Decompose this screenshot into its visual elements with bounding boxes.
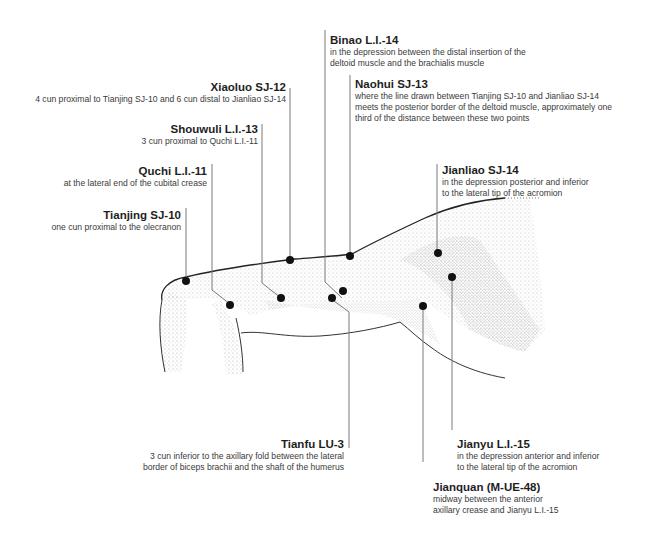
point-name: Tianfu LU-3: [143, 437, 344, 451]
point-binao: [339, 287, 347, 295]
label-tianfu: Tianfu LU-3 3 cun inferior to the axilla…: [143, 437, 344, 473]
label-shouwuli: Shouwuli L.I.-13 3 cun proximal to Quchi…: [142, 122, 258, 147]
point-desc: 3 cun inferior to the axillary fold betw…: [143, 451, 344, 462]
point-name: Shouwuli L.I.-13: [142, 122, 258, 136]
point-jianliao: [434, 249, 442, 257]
point-desc: in the depression posterior and inferior: [442, 177, 589, 188]
point-desc: to the lateral tip of the acromion: [442, 188, 589, 199]
point-naohui: [346, 252, 354, 260]
point-name: Tianjing SJ-10: [52, 208, 181, 222]
point-tianfu: [328, 294, 336, 302]
label-jianliao: Jianliao SJ-14 in the depression posteri…: [442, 163, 589, 199]
point-name: Jianliao SJ-14: [442, 163, 589, 177]
point-desc: deltoid muscle and the brachialis muscle: [330, 58, 526, 69]
label-jianyu: Jianyu L.I.-15 in the depression anterio…: [457, 437, 599, 473]
point-desc: in the depression anterior and inferior: [457, 451, 599, 462]
point-name: Jianquan (M-UE-48): [433, 480, 559, 494]
arm-shape: [160, 198, 545, 378]
point-desc: meets the posterior border of the deltoi…: [355, 102, 612, 113]
point-name: Quchi L.I.-11: [64, 164, 207, 178]
point-desc: 4 cun proximal to Tianjing SJ-10 and 6 c…: [35, 94, 286, 105]
point-name: Binao L.I.-14: [330, 33, 526, 47]
point-desc: border of biceps brachii and the shaft o…: [143, 462, 344, 473]
point-jianquan: [419, 302, 427, 310]
point-xiaoluo: [286, 256, 294, 264]
point-jianyu: [448, 273, 456, 281]
label-naohui: Naohui SJ-13 where the line drawn betwee…: [355, 77, 612, 124]
point-name: Jianyu L.I.-15: [457, 437, 599, 451]
point-desc: to the lateral tip of the acromion: [457, 462, 599, 473]
label-binao: Binao L.I.-14 in the depression between …: [330, 33, 526, 69]
point-name: Naohui SJ-13: [355, 77, 612, 91]
point-desc: in the depression between the distal ins…: [330, 47, 526, 58]
label-xiaoluo: Xiaoluo SJ-12 4 cun proximal to Tianjing…: [35, 80, 286, 105]
point-desc: midway between the anterior: [433, 494, 559, 505]
point-name: Xiaoluo SJ-12: [35, 80, 286, 94]
label-jianquan: Jianquan (M-UE-48) midway between the an…: [433, 480, 559, 516]
point-desc: axillary crease and Jianyu L.I.-15: [433, 505, 559, 516]
point-desc: where the line drawn between Tianjing SJ…: [355, 91, 612, 102]
label-quchi: Quchi L.I.-11 at the lateral end of the …: [64, 164, 207, 189]
point-tianjing: [182, 277, 190, 285]
point-desc: third of the distance between these two …: [355, 113, 612, 124]
point-desc: at the lateral end of the cubital crease: [64, 178, 207, 189]
label-tianjing: Tianjing SJ-10 one cun proximal to the o…: [52, 208, 181, 233]
point-shouwuli: [277, 294, 285, 302]
point-desc: 3 cun proximal to Quchi L.I.-11: [142, 136, 258, 147]
point-quchi: [226, 301, 234, 309]
point-desc: one cun proximal to the olecranon: [52, 222, 181, 233]
